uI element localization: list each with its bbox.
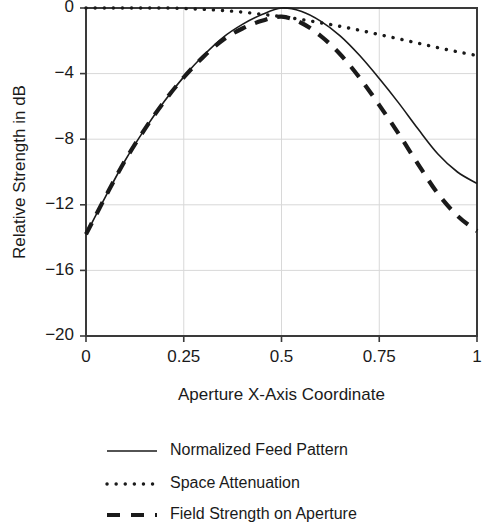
x-axis-title: Aperture X-Axis Coordinate — [178, 385, 385, 404]
x-tick-label-0.75: 0.75 — [363, 347, 396, 366]
y-tick-label--8: −8 — [55, 129, 74, 148]
x-tick-labels: 0 0.25 0.5 0.75 1 — [81, 347, 481, 366]
legend-label-normalized-feed-pattern: Normalized Feed Pattern — [170, 441, 348, 458]
y-tick-label--20: −20 — [45, 325, 74, 344]
y-tick-label--16: −16 — [45, 260, 74, 279]
legend-item-normalized-feed-pattern: Normalized Feed Pattern — [107, 441, 348, 458]
legend-item-field-strength-on-aperture: Field Strength on Aperture — [107, 505, 357, 522]
gridlines — [86, 8, 477, 336]
legend-label-field-strength-on-aperture: Field Strength on Aperture — [170, 505, 357, 522]
x-tick-label-0: 0 — [81, 347, 90, 366]
chart-figure: 0 −4 −8 −12 −16 −20 0 0.25 0.5 0.75 1 Ap… — [0, 0, 489, 528]
y-tick-label--12: −12 — [45, 194, 74, 213]
legend-label-space-attenuation: Space Attenuation — [170, 474, 300, 491]
y-tick-label-0: 0 — [65, 0, 74, 16]
y-tick-label--4: −4 — [55, 63, 74, 82]
x-tick-label-1: 1 — [472, 347, 481, 366]
legend-item-space-attenuation: Space Attenuation — [107, 474, 300, 491]
chart-svg: 0 −4 −8 −12 −16 −20 0 0.25 0.5 0.75 1 Ap… — [0, 0, 489, 528]
x-tick-label-0.25: 0.25 — [167, 347, 200, 366]
y-axis-title: Relative Strength in dB — [10, 85, 29, 259]
x-tick-label-0.5: 0.5 — [270, 347, 294, 366]
chart-legend: Normalized Feed Pattern Space Attenuatio… — [107, 441, 357, 522]
y-tick-labels: 0 −4 −8 −12 −16 −20 — [45, 0, 74, 344]
